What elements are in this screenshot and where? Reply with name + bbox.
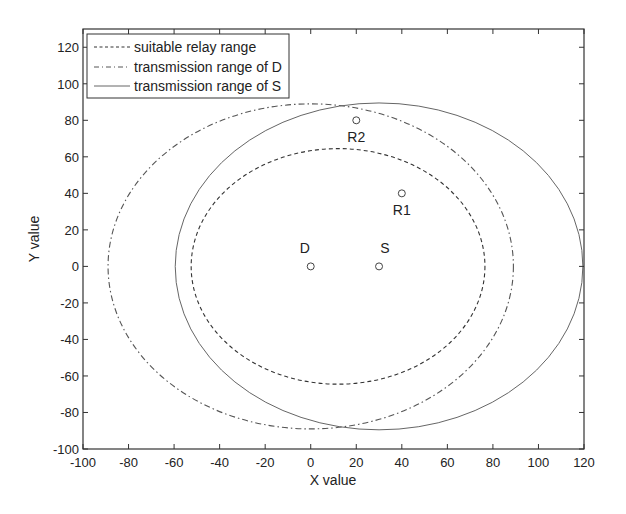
legend: suitable relay range transmission range … [87,34,289,98]
x-tick-label: 120 [573,455,595,470]
x-tick-label: 60 [440,455,454,470]
x-tick-label: -80 [119,455,138,470]
y-tick-label: 100 [57,77,79,92]
point-marker [307,263,314,270]
y-tick-label: -20 [60,296,79,311]
point-label: R2 [347,129,365,145]
x-axis-label: X value [310,472,357,488]
x-tick-label: -20 [256,455,275,470]
x-tick-label: 40 [395,455,409,470]
y-tick-label: 120 [57,40,79,55]
x-tick-label: -40 [210,455,229,470]
x-tick-label: 20 [349,455,363,470]
y-axis-label: Y value [26,216,42,263]
point-label: R1 [393,202,411,218]
legend-label-d: transmission range of D [134,59,282,75]
x-tick-labels: -100-80-60-40-20020406080100120 [70,455,595,470]
point-r1: R1 [393,190,411,219]
x-tick-label: 80 [486,455,500,470]
y-tick-labels: -100-80-60-40-20020406080100120 [53,40,79,457]
x-tick-label: -100 [70,455,96,470]
y-tick-label: -80 [60,405,79,420]
y-tick-label: 20 [65,223,79,238]
x-tick-label: -60 [165,455,184,470]
range-curve-0 [191,149,485,385]
point-marker [376,263,383,270]
y-tick-label: 40 [65,186,79,201]
legend-label-s: transmission range of S [134,78,281,94]
x-tick-label: 0 [307,455,314,470]
y-tick-label: 60 [65,150,79,165]
point-marker [398,190,405,197]
point-label: D [300,240,310,256]
point-label: S [380,240,389,256]
y-tick-label: 0 [72,259,79,274]
y-tick-label: -60 [60,369,79,384]
y-tick-label: -100 [53,442,79,457]
legend-label-relay: suitable relay range [134,39,256,55]
y-tick-label: -40 [60,332,79,347]
x-tick-label: 100 [528,455,550,470]
point-s: S [376,240,390,269]
chart: DSR1R2 -100-80-60-40-20020406080100120 -… [0,0,626,514]
point-d: D [300,240,315,269]
range-curves [108,103,583,430]
point-marker [353,117,360,124]
y-tick-label: 80 [65,113,79,128]
data-points: DSR1R2 [300,117,411,270]
point-r2: R2 [347,117,365,146]
